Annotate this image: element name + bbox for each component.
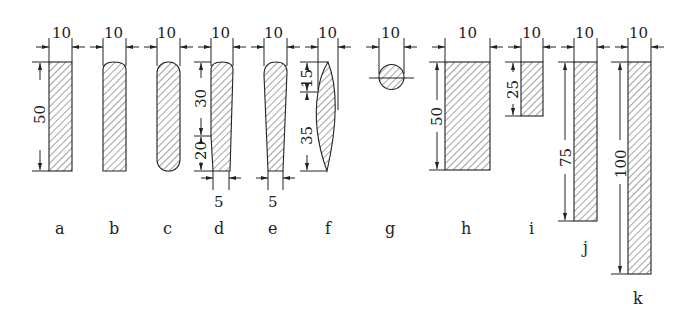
width-dim: 10 [157,24,176,42]
width-dim: 10 [458,24,477,42]
height-dim: 50 [428,107,446,126]
lower-dim: 35 [298,126,316,145]
profile-j: 10 75 j [557,24,610,257]
width-dim: 10 [264,24,283,42]
profile-label: k [633,289,643,308]
profile-label: g [385,219,395,238]
height-dim: 50 [31,105,49,124]
width-dim: 10 [211,24,230,42]
profile-b: 10 b [90,24,139,238]
width-dim: 10 [381,24,400,42]
upper-dim: 30 [192,89,210,108]
profile-k: 10 100 k [611,24,664,308]
profile-label: a [55,219,65,238]
profile-c: 10 c [144,24,193,238]
width-dim: 10 [104,24,123,42]
profile-h: 10 50 h [428,24,503,238]
bottom-width-dim: 5 [268,193,278,211]
width-dim: 10 [629,24,648,42]
profile-label: i [529,219,534,238]
profile-e: 10 5 e [251,24,300,238]
profile-label: j [581,238,588,257]
bottom-width-dim: 5 [214,193,224,211]
height-dim: 100 [612,149,630,178]
profile-label: c [163,219,172,238]
profile-g: 10 g [366,24,417,238]
profile-label: b [109,219,119,238]
upper-dim: 15 [298,69,316,88]
profile-label: f [325,219,332,238]
profile-label: d [214,219,224,238]
width-dim: 10 [575,24,594,42]
width-dim: 10 [52,24,71,42]
width-dim: 10 [318,24,337,42]
height-dim: 75 [557,148,575,167]
profile-label: e [268,219,277,238]
height-dim: 25 [504,80,522,99]
lower-dim: 20 [192,141,210,160]
profile-a: 10 50 a [31,24,85,238]
width-dim: 10 [522,24,541,42]
profile-label: h [461,219,471,238]
profile-f: 10 15 35 f [298,24,351,238]
profile-i: 10 25 i [504,24,556,238]
profiles-diagram: 10 50 a 10 b 10 c 10 30 20 5 d [0,0,681,322]
profile-d: 10 30 20 5 d [192,24,246,238]
